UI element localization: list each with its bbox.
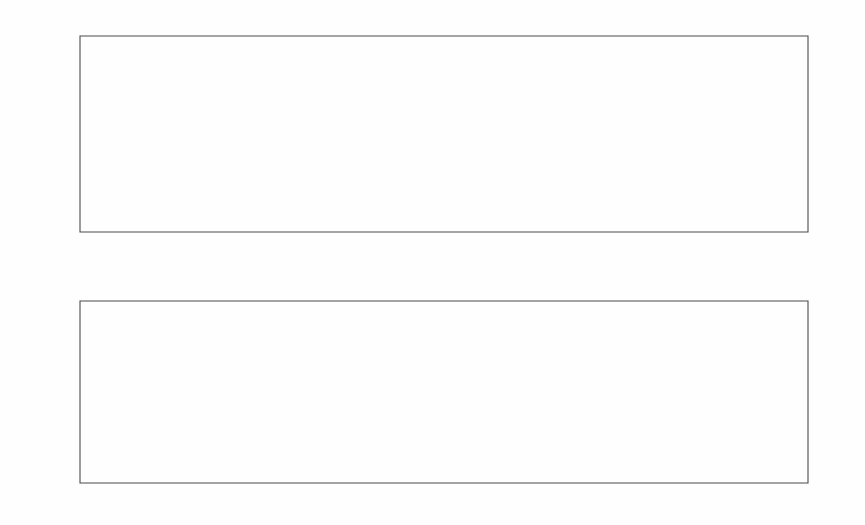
top-plot-axes <box>80 36 808 232</box>
scan-artifact-bottom <box>300 504 420 513</box>
scan-artifact-right <box>833 110 847 148</box>
bottom-plot-svg <box>0 262 865 525</box>
bottom-plot-panel <box>0 262 865 525</box>
figure-container <box>0 0 865 525</box>
top-plot-frame <box>80 36 808 232</box>
bottom-plot-axes <box>80 301 808 483</box>
bottom-plot-frame <box>80 301 808 483</box>
top-plot-svg <box>0 0 865 265</box>
top-plot-panel <box>0 0 865 265</box>
